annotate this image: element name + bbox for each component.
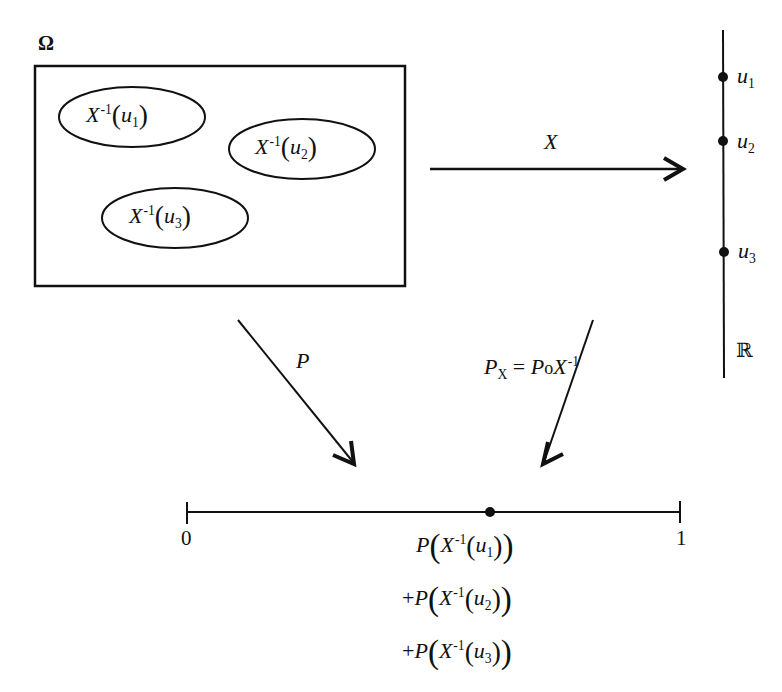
diagram-canvas: Ω X-1(u1) X-1(u2) X-1(u3) X u1 u2 u3 ℝ P… — [0, 0, 782, 692]
sum-p: P — [414, 638, 427, 663]
sum-p: P — [414, 585, 427, 610]
preimage-label-1: X-1(u1) — [86, 101, 148, 129]
preimage-sub: 2 — [301, 147, 308, 162]
sample-space-box — [35, 66, 405, 286]
preimage-var: u — [121, 102, 132, 127]
sum-fn: X — [440, 532, 453, 557]
sum-exp: -1 — [455, 532, 466, 547]
preimage-sub: 3 — [175, 216, 182, 231]
sum-term-3: +P(X-1(u3)) — [402, 636, 512, 669]
preimage-var: u — [290, 134, 301, 159]
px-eq: = — [513, 354, 525, 379]
sum-term-2: +P(X-1(u2)) — [402, 583, 512, 616]
p-map-arrow-shaft — [238, 320, 353, 462]
x-map-label: X — [544, 131, 557, 153]
preimage-fn: X — [129, 203, 142, 228]
sum-var: u — [474, 585, 485, 610]
preimage-fn: X — [86, 102, 99, 127]
p-map-arrowhead-icon — [333, 441, 354, 464]
px-lhs: P — [484, 354, 497, 379]
sum-prefix: + — [402, 585, 414, 610]
preimage-fn: X — [255, 134, 268, 159]
real-line-point-u2 — [718, 136, 728, 146]
point-sub: 3 — [749, 251, 756, 266]
sum-prefix: + — [402, 638, 414, 663]
real-line-label: ℝ — [736, 340, 753, 360]
px-rhs-p: P — [531, 354, 544, 379]
preimage-exp: -1 — [269, 134, 280, 149]
sum-sub: 3 — [485, 651, 492, 666]
sum-sub: 2 — [485, 598, 492, 613]
px-rhs-x: X — [553, 354, 566, 379]
real-line-axis — [723, 30, 724, 378]
px-lhs-sub: X — [497, 367, 507, 382]
preimage-label-3: X-1(u3) — [129, 202, 191, 230]
px-compose: o — [544, 358, 553, 378]
preimage-exp: -1 — [143, 203, 154, 218]
preimage-var: u — [164, 203, 175, 228]
sum-fn: X — [439, 638, 452, 663]
real-line-label-u2: u2 — [737, 130, 755, 155]
point-var: u — [737, 63, 748, 88]
sum-fn: X — [439, 585, 452, 610]
px-map-arrow-shaft — [544, 320, 593, 462]
unit-interval-end-label: 1 — [676, 528, 687, 549]
preimage-exp: -1 — [100, 102, 111, 117]
point-var: u — [737, 128, 748, 153]
preimage-label-2: X-1(u2) — [255, 133, 317, 161]
unit-interval-point — [485, 507, 495, 517]
real-line-point-u1 — [718, 72, 728, 82]
sum-exp: -1 — [453, 585, 464, 600]
sum-exp: -1 — [453, 638, 464, 653]
real-line-point-u3 — [719, 247, 729, 257]
point-var: u — [738, 238, 749, 263]
sample-space-label: Ω — [38, 33, 54, 53]
p-map-label: P — [296, 350, 309, 372]
px-map-label: PX = PoX-1 — [484, 355, 579, 382]
unit-interval-start-label: 0 — [181, 528, 192, 549]
point-sub: 1 — [748, 76, 755, 91]
sum-term-1: P(X-1(u1)) — [416, 530, 513, 563]
preimage-sub: 1 — [132, 115, 139, 130]
sum-var: u — [474, 638, 485, 663]
sum-p: P — [416, 532, 429, 557]
sum-var: u — [475, 532, 486, 557]
point-sub: 2 — [748, 141, 755, 156]
real-line-label-u3: u3 — [738, 240, 756, 265]
px-map-arrowhead-icon — [543, 442, 563, 464]
real-line-label-u1: u1 — [737, 65, 755, 90]
px-rhs-exp: -1 — [568, 354, 579, 369]
